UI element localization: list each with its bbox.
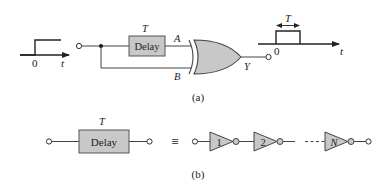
xor-extra-curve	[189, 40, 193, 74]
input-terminal	[76, 43, 81, 48]
delay-b-input-terminal	[46, 139, 51, 144]
inverter-n-label: N	[329, 137, 338, 148]
equivalence-symbol: ≡	[171, 134, 178, 149]
delay-block-a: Delay T	[129, 23, 165, 56]
caption-a: (a)	[192, 91, 205, 104]
chain-output-terminal	[366, 139, 371, 144]
input-a-label: A	[173, 33, 181, 44]
pulse-origin-label: 0	[274, 45, 280, 57]
pulse-axis-label: t	[340, 45, 344, 57]
delay-time-label-a: T	[142, 23, 149, 34]
output-y-label: Y	[244, 61, 251, 72]
inverter-2: 2	[254, 132, 283, 151]
delay-label-a: Delay	[134, 41, 160, 52]
xor-body	[194, 40, 241, 74]
delay-circuit-diagram: 0 t Delay T A B Y T 0 t (a) Delay T ≡	[0, 0, 391, 185]
input-step-waveform: 0 t	[20, 40, 69, 69]
chain-input-terminal	[192, 139, 197, 144]
inverter-1-bubble	[233, 139, 239, 145]
inverter-1-label: 1	[216, 137, 221, 148]
xor-gate	[189, 40, 241, 74]
step-origin-label: 0	[32, 57, 38, 69]
inverter-1: 1	[210, 132, 239, 151]
inverter-2-bubble	[277, 139, 283, 145]
pulse-width-label: T	[285, 13, 292, 24]
step-axis-label: t	[61, 57, 65, 69]
pulse-signal	[276, 31, 300, 44]
output-pulse-waveform: T 0 t	[258, 13, 344, 57]
delay-label-b: Delay	[91, 136, 118, 148]
inverter-n-bubble	[348, 139, 354, 145]
step-signal	[20, 40, 61, 55]
caption-b: (b)	[192, 168, 205, 181]
inverter-n: N	[325, 132, 354, 151]
output-terminal	[266, 54, 271, 59]
delay-block-b: Delay T	[79, 116, 129, 153]
inverter-2-label: 2	[260, 137, 265, 148]
input-b-label: B	[174, 71, 181, 82]
delay-b-output-terminal	[147, 139, 152, 144]
delay-time-label-b: T	[99, 116, 106, 127]
